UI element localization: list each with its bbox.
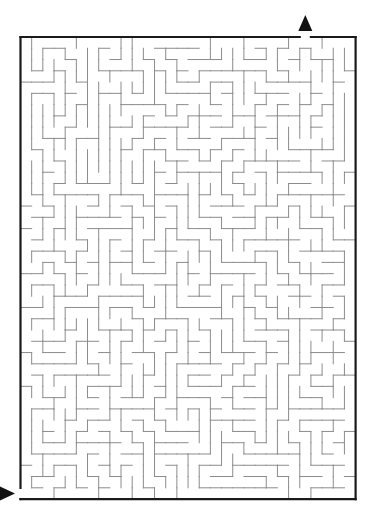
maze-walls	[21, 37, 356, 499]
maze-board[interactable]	[0, 0, 374, 519]
start-arrow-icon	[0, 486, 15, 500]
exit-arrow-icon	[298, 15, 312, 31]
